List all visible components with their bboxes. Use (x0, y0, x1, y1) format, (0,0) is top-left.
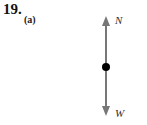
normal-force-label: N (115, 14, 122, 26)
normal-force-arrow (102, 16, 110, 67)
object-dot (102, 63, 110, 71)
weight-force-arrow (102, 67, 110, 116)
free-body-diagram (0, 0, 147, 125)
weight-force-label: W (115, 107, 124, 119)
